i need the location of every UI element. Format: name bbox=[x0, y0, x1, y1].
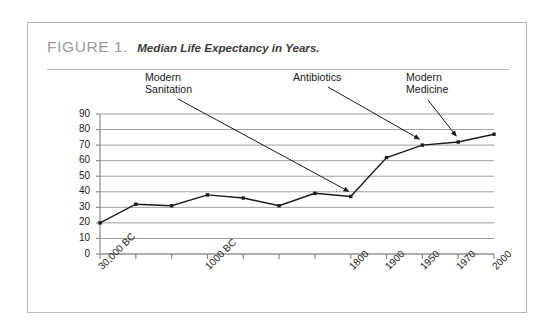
leader-modern-medicine bbox=[428, 100, 456, 136]
data-point-marker bbox=[313, 192, 316, 195]
data-point-marker bbox=[349, 195, 352, 198]
data-point-marker bbox=[170, 204, 173, 207]
data-point-marker bbox=[421, 143, 424, 146]
annotation-modern-sanitation: Modern Sanitation bbox=[145, 71, 192, 96]
y-axis-tick-label: 50 bbox=[66, 170, 90, 181]
data-point-marker bbox=[206, 193, 209, 196]
data-point-marker bbox=[134, 203, 137, 206]
y-axis-tick-label: 80 bbox=[66, 123, 90, 134]
y-axis-tick-label: 70 bbox=[66, 139, 90, 150]
annotation-antibiotics: Antibiotics bbox=[293, 71, 341, 83]
y-axis-tick-label: 60 bbox=[66, 154, 90, 165]
data-point-marker bbox=[242, 196, 245, 199]
data-line-median-life-expectancy bbox=[100, 134, 494, 223]
annotation-modern-medicine: Modern Medicine bbox=[406, 71, 448, 96]
data-point-marker bbox=[277, 204, 280, 207]
y-axis-tick-label: 20 bbox=[66, 216, 90, 227]
data-point-marker bbox=[385, 156, 388, 159]
y-axis-tick-label: 10 bbox=[66, 232, 90, 243]
data-point-marker bbox=[456, 140, 459, 143]
y-axis-tick-label: 90 bbox=[66, 108, 90, 119]
figure-card: FIGURE 1.Median Life Expectancy in Years… bbox=[27, 22, 527, 313]
data-point-marker bbox=[98, 221, 101, 224]
y-axis-tick-label: 0 bbox=[66, 248, 90, 259]
data-point-marker bbox=[492, 133, 495, 136]
y-axis-tick-label: 40 bbox=[66, 185, 90, 196]
y-axis-tick-label: 30 bbox=[66, 201, 90, 212]
chart-plot-area: Modern Sanitation Antibiotics Modern Med… bbox=[28, 23, 528, 314]
